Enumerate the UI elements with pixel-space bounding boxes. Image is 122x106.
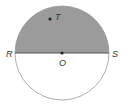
label-s: S (112, 49, 118, 59)
label-r: R (6, 49, 13, 59)
circle-diagram: T O R S (0, 0, 122, 106)
point-o (60, 51, 63, 54)
label-o: O (59, 58, 66, 68)
point-t (48, 17, 51, 20)
shaded-semicircle (15, 6, 109, 53)
